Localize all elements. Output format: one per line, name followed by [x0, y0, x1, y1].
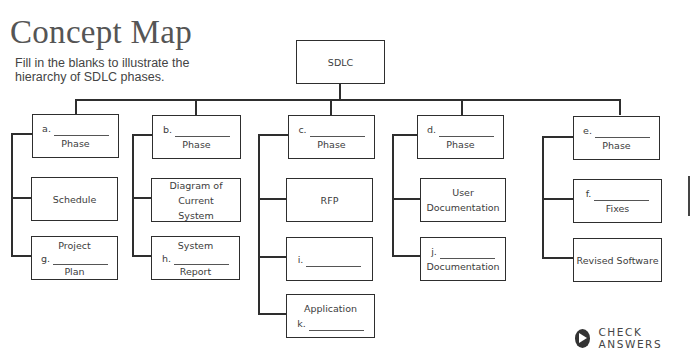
connector [330, 99, 332, 115]
application-box: Application k. [286, 294, 375, 338]
check-answers-label: CHECK ANSWERS [598, 326, 690, 350]
play-icon [575, 329, 590, 348]
user-documentation-box: User Documentation [420, 178, 506, 222]
phase-e-box: e. Phase [573, 116, 660, 160]
root-label: SDLC [328, 55, 353, 70]
phase-b-box: b. Phase [152, 115, 241, 159]
blank-e[interactable] [595, 129, 650, 138]
connector [195, 99, 197, 115]
connector [258, 134, 288, 136]
connector [542, 136, 573, 138]
blank-d[interactable] [439, 128, 494, 137]
connector [11, 255, 31, 257]
connector [392, 255, 420, 257]
blank-c[interactable] [310, 128, 365, 137]
node-text: Application [304, 301, 357, 316]
blank-letter: e. [583, 123, 592, 138]
blank-b[interactable] [175, 128, 230, 137]
connector [132, 197, 152, 199]
connector [461, 99, 463, 115]
connector [258, 313, 286, 315]
node-text: System [178, 239, 213, 252]
phase-label: Phase [602, 138, 630, 153]
node-text: Fixes [606, 201, 630, 216]
blank-letter: b. [163, 122, 172, 137]
node-text: Diagram of Current [152, 178, 240, 208]
blank-h[interactable] [174, 256, 229, 265]
rfp-box: RFP [286, 178, 373, 222]
connector [75, 99, 621, 101]
blank-g[interactable] [53, 256, 108, 265]
phase-label: Phase [182, 137, 210, 152]
blank-f[interactable] [594, 192, 649, 201]
phase-a-box: a. Phase [32, 114, 119, 158]
blank-letter: f. [586, 186, 592, 201]
node-text: Plan [64, 265, 84, 278]
instructions: Fill in the blanks to illustrate the hie… [15, 56, 195, 84]
blank-i[interactable] [306, 258, 361, 267]
connector [132, 255, 152, 257]
blank-letter: k. [297, 316, 306, 331]
connector [542, 198, 573, 200]
node-text: Report [180, 265, 212, 278]
connector [339, 84, 341, 100]
root-node-sdlc: SDLC [296, 40, 385, 84]
fixes-box: f. Fixes [573, 179, 662, 223]
diagram-current-system-box: Diagram of Current System [151, 178, 241, 222]
connector [132, 134, 152, 136]
blank-letter: j. [431, 244, 437, 259]
connector [619, 99, 621, 115]
connector [258, 134, 260, 314]
connector [392, 134, 394, 256]
blank-letter: d. [427, 122, 436, 137]
node-text: RFP [321, 193, 339, 208]
project-plan-box: Project g. Plan [31, 236, 118, 280]
connector [392, 134, 417, 136]
phase-label: Phase [446, 137, 474, 152]
node-text: Schedule [53, 192, 97, 207]
schedule-box: Schedule [31, 177, 118, 221]
blank-i-box: i. [286, 237, 373, 281]
blank-letter: c. [298, 122, 306, 137]
connector [11, 197, 31, 199]
node-text: Documentation [426, 200, 499, 215]
connector [132, 134, 134, 256]
phase-d-box: d. Phase [417, 115, 504, 159]
phase-c-box: c. Phase [288, 115, 375, 159]
blank-letter: a. [42, 121, 51, 136]
connector [11, 133, 32, 135]
connector [11, 133, 13, 256]
connector [542, 257, 573, 259]
connector [75, 99, 77, 115]
blank-letter: i. [298, 252, 304, 267]
blank-letter: h. [162, 252, 171, 265]
blank-k[interactable] [309, 322, 364, 331]
blank-a[interactable] [54, 127, 109, 136]
node-text: System [178, 208, 213, 223]
node-text: User [452, 185, 474, 200]
system-report-box: System h. Report [151, 236, 240, 280]
node-text: Documentation [426, 259, 499, 274]
connector [258, 256, 286, 258]
documentation-j-box: j. Documentation [420, 237, 506, 281]
phase-label: Phase [317, 137, 345, 152]
blank-j[interactable] [440, 250, 495, 259]
page-title: Concept Map [10, 14, 192, 51]
node-text: Revised Software [576, 253, 658, 268]
revised-software-box: Revised Software [573, 238, 662, 282]
connector [392, 198, 420, 200]
node-text: Project [58, 239, 91, 252]
connector [542, 136, 544, 258]
connector [258, 198, 286, 200]
check-answers-button[interactable]: CHECK ANSWERS [575, 326, 690, 350]
blank-letter: g. [41, 252, 50, 265]
phase-label: Phase [61, 136, 89, 151]
